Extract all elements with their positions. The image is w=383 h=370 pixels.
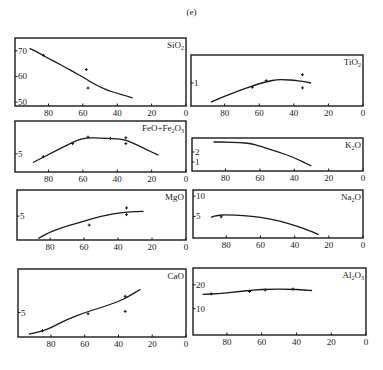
panel-mgo: 8060402005MgO	[17, 190, 189, 252]
y-tick-label: 1	[195, 157, 200, 167]
plot-frame	[193, 190, 363, 238]
x-tick-label: 40	[113, 108, 123, 118]
y-tick-label: 5	[18, 149, 23, 159]
x-tick-label: 60	[80, 242, 90, 252]
trend-curve	[211, 80, 311, 102]
trend-curve	[203, 289, 313, 294]
x-tick-label: 60	[78, 108, 88, 118]
trend-curve	[214, 142, 312, 166]
panel-feo-fe2o3: 8060402005FeO+Fe2O3	[15, 121, 189, 184]
x-tick-label: 40	[290, 173, 300, 183]
panel-na2o: 806040200105Na2O	[193, 190, 366, 250]
x-tick-label: 20	[324, 240, 334, 250]
panel-title: Al2O3	[343, 270, 365, 281]
x-tick-label: 40	[114, 339, 124, 349]
x-tick-label: 0	[184, 242, 189, 252]
x-tick-label: 80	[221, 173, 231, 183]
x-tick-label: 0	[361, 240, 366, 250]
trend-curve	[29, 289, 140, 334]
x-tick-label: 0	[184, 108, 189, 118]
y-tick-label: 70	[18, 46, 28, 56]
panel-k2o: 80604020021K2O	[192, 138, 366, 183]
x-tick-label: 0	[184, 174, 189, 184]
x-tick-label: 80	[222, 337, 232, 347]
trend-curve	[38, 211, 143, 238]
x-tick-label: 20	[148, 242, 158, 252]
y-tick-label: 5	[20, 211, 25, 221]
panel-title: K2O	[345, 140, 362, 151]
x-tick-label: 20	[147, 174, 157, 184]
x-tick-label: 80	[44, 108, 54, 118]
x-tick-label: 40	[289, 108, 299, 118]
x-tick-label: 20	[324, 108, 334, 118]
x-tick-label: 60	[80, 339, 90, 349]
y-tick-label: 20	[196, 280, 206, 290]
x-tick-label: 0	[184, 339, 189, 349]
plot-frame	[18, 269, 186, 337]
trend-curve	[33, 138, 159, 163]
x-tick-label: 0	[361, 173, 366, 183]
x-tick-label: 80	[222, 240, 232, 250]
x-tick-label: 80	[220, 108, 230, 118]
y-tick-label: 2	[195, 147, 200, 157]
x-tick-label: 20	[148, 339, 158, 349]
x-tick-label: 40	[292, 337, 302, 347]
y-tick-label: 1	[194, 78, 199, 88]
x-tick-label: 60	[256, 240, 266, 250]
panel-title: CaO	[168, 271, 185, 281]
plot-frame	[17, 190, 186, 240]
x-tick-label: 80	[46, 242, 56, 252]
y-tick-label: 5	[21, 308, 26, 318]
y-tick-label: 60	[18, 71, 28, 81]
panel-tio2: 8060402001TiO2	[191, 55, 366, 118]
geochem-variation-plots: 806040200706050SiO28060402001TiO28060402…	[0, 0, 383, 370]
x-tick-label: 60	[78, 174, 88, 184]
trend-curve	[211, 215, 319, 235]
x-tick-label: 80	[44, 174, 54, 184]
x-tick-label: 60	[255, 108, 265, 118]
panel-title: TiO2	[344, 57, 361, 68]
x-tick-label: 60	[257, 337, 267, 347]
panel-title: FeO+Fe2O3	[142, 123, 184, 134]
y-tick-label: 5	[196, 211, 201, 221]
x-tick-label: 0	[361, 108, 366, 118]
panel-al2o3: 8060402002010Al2O3	[193, 268, 369, 347]
x-tick-label: 20	[324, 173, 334, 183]
panel-title: MgO	[165, 192, 185, 202]
y-tick-label: 10	[196, 304, 206, 314]
x-tick-label: 20	[327, 337, 337, 347]
y-tick-label: 50	[18, 97, 28, 107]
plot-frame	[192, 138, 363, 171]
plot-frame	[193, 268, 366, 335]
panel-title: SiO2	[167, 40, 184, 51]
x-tick-label: 40	[113, 174, 123, 184]
x-tick-label: 60	[255, 173, 265, 183]
panel-sio2: 806040200706050SiO2	[15, 38, 189, 118]
x-tick-label: 80	[46, 339, 56, 349]
panel-cao: 8060402005CaO	[18, 269, 189, 349]
trend-curve	[30, 48, 133, 98]
panel-title: Na2O	[341, 192, 362, 203]
y-tick-label: 10	[196, 191, 206, 201]
x-tick-label: 40	[114, 242, 124, 252]
x-tick-label: 40	[290, 240, 300, 250]
plot-frame	[15, 38, 186, 106]
x-tick-label: 20	[147, 108, 157, 118]
x-tick-label: 0	[364, 337, 369, 347]
